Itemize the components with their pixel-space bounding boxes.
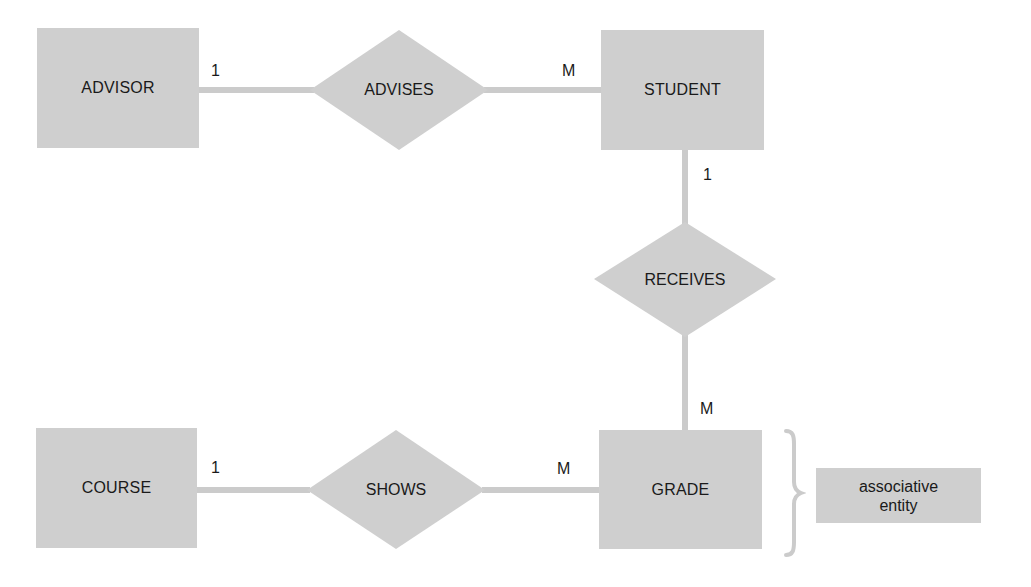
entity-label: ADVISOR bbox=[81, 79, 154, 97]
connector-advisor-advises bbox=[198, 87, 314, 93]
entity-course: COURSE bbox=[36, 428, 197, 548]
relationship-label: RECEIVES bbox=[645, 271, 726, 289]
relationship-label: SHOWS bbox=[366, 481, 426, 499]
right-curly-brace-icon bbox=[782, 428, 806, 558]
relationship-receives: RECEIVES bbox=[594, 222, 776, 337]
cardinality-advisor: 1 bbox=[211, 62, 220, 80]
entity-label: STUDENT bbox=[644, 81, 721, 99]
cardinality-student-advises: M bbox=[562, 62, 575, 80]
connector-course-shows bbox=[196, 487, 310, 493]
cardinality-grade-receives: M bbox=[700, 400, 713, 418]
connector-receives-grade bbox=[682, 334, 688, 430]
associative-entity-note: associative entity bbox=[816, 468, 981, 523]
cardinality-grade-shows: M bbox=[557, 460, 570, 478]
note-line-2: entity bbox=[879, 496, 917, 515]
entity-student: STUDENT bbox=[601, 30, 764, 150]
connector-student-receives bbox=[682, 148, 688, 226]
entity-grade: GRADE bbox=[599, 430, 762, 549]
relationship-shows: SHOWS bbox=[307, 430, 485, 549]
entity-advisor: ADVISOR bbox=[37, 28, 199, 148]
cardinality-student-receives: 1 bbox=[703, 166, 712, 184]
note-line-1: associative bbox=[859, 477, 938, 496]
entity-label: GRADE bbox=[652, 481, 710, 499]
relationship-label: ADVISES bbox=[364, 81, 433, 99]
entity-label: COURSE bbox=[82, 479, 152, 497]
cardinality-course: 1 bbox=[211, 459, 220, 477]
relationship-advises: ADVISES bbox=[310, 30, 488, 150]
connector-shows-grade bbox=[482, 487, 600, 493]
er-diagram: ADVISOR STUDENT COURSE GRADE ADVISES REC… bbox=[0, 0, 1031, 587]
connector-advises-student bbox=[484, 87, 602, 93]
